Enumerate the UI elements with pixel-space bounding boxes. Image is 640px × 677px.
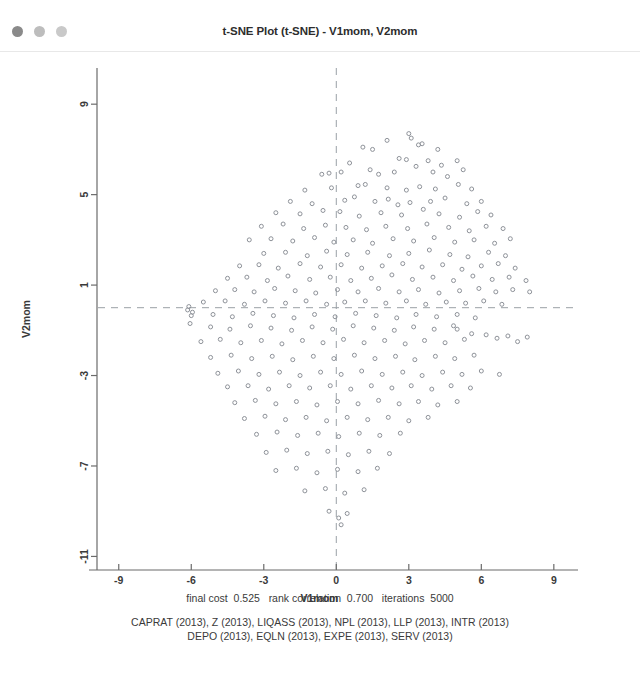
scatter-point xyxy=(479,369,483,373)
scatter-point xyxy=(525,335,529,339)
scatter-point xyxy=(284,250,288,254)
scatter-point xyxy=(257,372,261,376)
scatter-point xyxy=(218,337,222,341)
scatter-point xyxy=(524,279,528,283)
scatter-point xyxy=(277,370,281,374)
scatter-point xyxy=(430,387,434,391)
scatter-point xyxy=(385,138,389,142)
scatter-point xyxy=(321,208,325,212)
scatter-point xyxy=(455,312,459,316)
scatter-point xyxy=(274,469,278,473)
scatter-point xyxy=(374,314,378,318)
scatter-point xyxy=(379,211,383,215)
scatter-point xyxy=(380,372,384,376)
scatter-point xyxy=(363,299,367,303)
scatter-point xyxy=(302,227,306,231)
scatter-point xyxy=(349,387,353,391)
scatter-point xyxy=(412,239,416,243)
scatter-point xyxy=(343,300,347,304)
scatter-point xyxy=(356,290,360,294)
scatter-point xyxy=(390,273,394,277)
scatter-point xyxy=(445,175,449,179)
scatter-point xyxy=(242,417,246,421)
scatter-point xyxy=(455,327,459,331)
scatter-point xyxy=(455,159,459,163)
scatter-point xyxy=(247,238,251,242)
scatter-point xyxy=(403,342,407,346)
scatter-point xyxy=(460,267,464,271)
scatter-point xyxy=(397,402,401,406)
scatter-point xyxy=(352,353,356,357)
scatter-point xyxy=(479,199,483,203)
scatter-point xyxy=(325,302,329,306)
scatter-point xyxy=(407,132,411,136)
scatter-point xyxy=(456,182,460,186)
scatter-point xyxy=(310,325,314,329)
scatter-point xyxy=(427,248,431,252)
scatter-point xyxy=(345,253,349,257)
scatter-point xyxy=(360,369,364,373)
scatter-point xyxy=(377,286,381,290)
scatter-point xyxy=(448,253,452,257)
scatter-point xyxy=(294,400,298,404)
scatter-point xyxy=(462,337,466,341)
scatter-point xyxy=(351,238,355,242)
scatter-point xyxy=(188,322,192,326)
scatter-point xyxy=(373,357,377,361)
y-axis-tick-label: 1 xyxy=(78,282,90,288)
scatter-point xyxy=(252,290,256,294)
scatter-point xyxy=(228,327,232,331)
scatter-point xyxy=(443,196,447,200)
scatter-point xyxy=(372,326,376,330)
scatter-point xyxy=(439,163,443,167)
scatter-point xyxy=(213,289,217,293)
scatter-point xyxy=(484,224,488,228)
x-axis-tick-label: -9 xyxy=(114,574,123,586)
scatter-point xyxy=(354,311,358,315)
scatter-point xyxy=(436,403,440,407)
scatter-point xyxy=(384,224,388,228)
scatter-point xyxy=(246,384,250,388)
scatter-point xyxy=(476,210,480,214)
scatter-point xyxy=(262,251,266,255)
y-axis-title: V2mom xyxy=(20,300,32,338)
scatter-point xyxy=(209,325,213,329)
scatter-point xyxy=(320,172,324,176)
scatter-point xyxy=(409,136,413,140)
scatter-point xyxy=(362,341,366,345)
scatter-point xyxy=(516,340,520,344)
scatter-point xyxy=(356,184,360,188)
reference-lines-group xyxy=(98,68,574,574)
scatter-point xyxy=(412,325,416,329)
scatter-point xyxy=(216,371,220,375)
scatter-point xyxy=(420,374,424,378)
scatter-point xyxy=(420,265,424,269)
scatter-point xyxy=(433,187,437,191)
scatter-point xyxy=(368,168,372,172)
scatter-point xyxy=(408,201,412,205)
scatter-point xyxy=(449,384,453,388)
scatter-point xyxy=(298,262,302,266)
scatter-point xyxy=(343,491,347,495)
scatter-point xyxy=(361,145,365,149)
x-axis-tick-label: -3 xyxy=(259,574,268,586)
scatter-point xyxy=(313,236,317,240)
x-axis-tick-label: 9 xyxy=(551,574,557,586)
scatter-point xyxy=(404,299,408,303)
scatter-point xyxy=(211,312,215,316)
axis-titles-group: V1momV2mom xyxy=(20,300,338,604)
scatter-point xyxy=(511,288,515,292)
scatter-point xyxy=(274,402,278,406)
scatter-point xyxy=(435,315,439,319)
scatter-point xyxy=(253,398,257,402)
scatter-point xyxy=(436,147,440,151)
scatter-point xyxy=(259,338,263,342)
scatter-point xyxy=(298,374,302,378)
scatter-point xyxy=(397,156,401,160)
scatter-point xyxy=(337,516,341,520)
scatter-point xyxy=(336,467,340,471)
scatter-point xyxy=(273,286,277,290)
scatter-point xyxy=(286,274,290,278)
scatter-point xyxy=(433,354,437,358)
scatter-point xyxy=(482,299,486,303)
